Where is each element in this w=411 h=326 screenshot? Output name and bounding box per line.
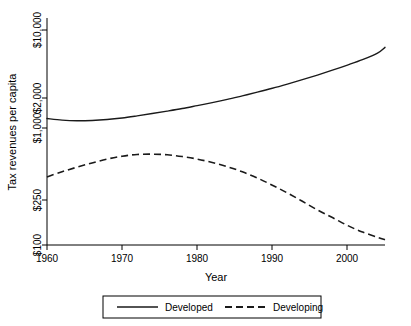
y-axis-title: Tax revenues per capita (6, 73, 18, 191)
y-tick-label-250: $250 (32, 188, 43, 211)
x-tick-label-1990: 1990 (261, 253, 284, 264)
series-line-developing (47, 154, 385, 240)
x-tick-label-1970: 1970 (111, 253, 134, 264)
legend-label-developed: Developed (165, 302, 213, 313)
x-axis-title: Year (205, 271, 228, 283)
y-tick-label-1000: $1,000 (32, 112, 43, 143)
legend-label-developing: Developing (273, 302, 323, 313)
axes-group (47, 18, 385, 245)
y-tick-label-10000: $10,000 (32, 11, 43, 48)
y-tick-label-2000: $2,000 (32, 82, 43, 113)
chart-page: $10,000 $2,000 $1,000 $250 $100 1960 197… (0, 0, 411, 326)
y-axis-ticks: $10,000 $2,000 $1,000 $250 $100 (32, 11, 47, 256)
x-tick-label-1980: 1980 (186, 253, 209, 264)
series-line-developed (47, 47, 385, 120)
x-tick-label-1960: 1960 (36, 253, 59, 264)
line-chart: $10,000 $2,000 $1,000 $250 $100 1960 197… (0, 0, 411, 326)
x-axis-ticks: 1960 1970 1980 1990 2000 (36, 245, 359, 264)
chart-legend: Developed Developing (103, 296, 323, 318)
x-tick-label-2000: 2000 (336, 253, 359, 264)
